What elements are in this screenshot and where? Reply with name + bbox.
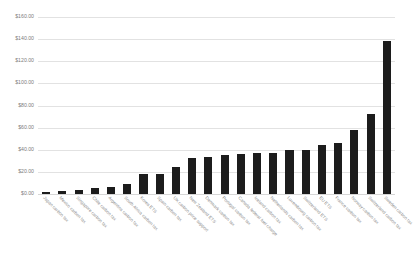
y-axis-tick-label: $0.00: [21, 191, 34, 196]
gridline: [38, 194, 395, 195]
y-axis: $160.00$140.00$120.00$100.00$80.00$60.00…: [0, 0, 36, 177]
y-axis-tick-label: $100.00: [15, 81, 34, 86]
bar: [302, 150, 310, 194]
bar: [318, 145, 326, 194]
bar: [204, 157, 212, 194]
bar: [334, 143, 342, 194]
y-axis-tick-label: $60.00: [18, 125, 34, 130]
bar: [107, 187, 115, 194]
y-axis-tick-label: $120.00: [15, 59, 34, 64]
y-axis-tick-label: $20.00: [18, 169, 34, 174]
bar: [75, 190, 83, 194]
bar: [188, 158, 196, 195]
bar: [58, 191, 66, 194]
y-axis-tick-label: $140.00: [15, 37, 34, 42]
x-axis-tick-label: EU ETS: [318, 196, 332, 210]
y-axis-tick-label: $80.00: [18, 103, 34, 108]
bar: [237, 154, 245, 194]
bar: [91, 188, 99, 194]
bar: [139, 174, 147, 194]
y-axis-tick-label: $40.00: [18, 147, 34, 152]
x-axis: Japan carbon taxMexico carbon taxSingapo…: [38, 196, 395, 261]
bar: [383, 41, 391, 194]
y-axis-tick-label: $160.00: [15, 14, 34, 19]
bar: [123, 184, 131, 194]
bar: [285, 150, 293, 194]
bar: [367, 114, 375, 194]
bar: [269, 153, 277, 194]
bar: [253, 153, 261, 194]
plot-area: [38, 17, 395, 194]
bar: [350, 130, 358, 194]
bar: [42, 192, 50, 194]
bar: [221, 155, 229, 194]
bar-series: [38, 17, 395, 194]
bar: [156, 174, 164, 194]
bar: [172, 167, 180, 194]
